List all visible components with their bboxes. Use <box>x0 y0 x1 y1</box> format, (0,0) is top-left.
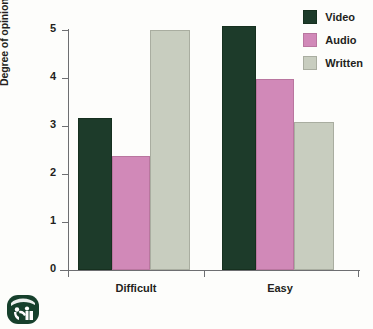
legend-item-video[interactable]: Video <box>303 10 363 24</box>
legend-swatch-audio-icon <box>303 33 317 47</box>
bar-difficult-audio[interactable] <box>112 156 150 270</box>
bar-difficult-video[interactable] <box>78 118 112 270</box>
x-tick-1 <box>204 270 205 277</box>
x-axis-line <box>60 270 360 271</box>
x-tick-0 <box>68 270 69 277</box>
bar-easy-video[interactable] <box>222 26 256 270</box>
bar-difficult-written[interactable] <box>150 30 190 270</box>
x-tick-2 <box>358 270 359 277</box>
legend-item-audio[interactable]: Audio <box>303 33 363 47</box>
publisher-logo-icon <box>6 294 40 325</box>
bar-easy-audio[interactable] <box>256 79 294 270</box>
legend-swatch-written-icon <box>303 56 317 70</box>
chart-figure: Degree of opinion change 012345 Difficul… <box>0 0 373 329</box>
legend-label-video: Video <box>325 11 355 23</box>
chart-legend: Video Audio Written <box>303 10 363 70</box>
legend-swatch-video-icon <box>303 10 317 24</box>
x-group-label-difficult: Difficult <box>91 282 181 294</box>
legend-item-written[interactable]: Written <box>303 56 363 70</box>
legend-label-written: Written <box>325 57 363 69</box>
bar-easy-written[interactable] <box>294 122 334 270</box>
legend-label-audio: Audio <box>325 34 356 46</box>
x-group-label-easy: Easy <box>235 282 325 294</box>
